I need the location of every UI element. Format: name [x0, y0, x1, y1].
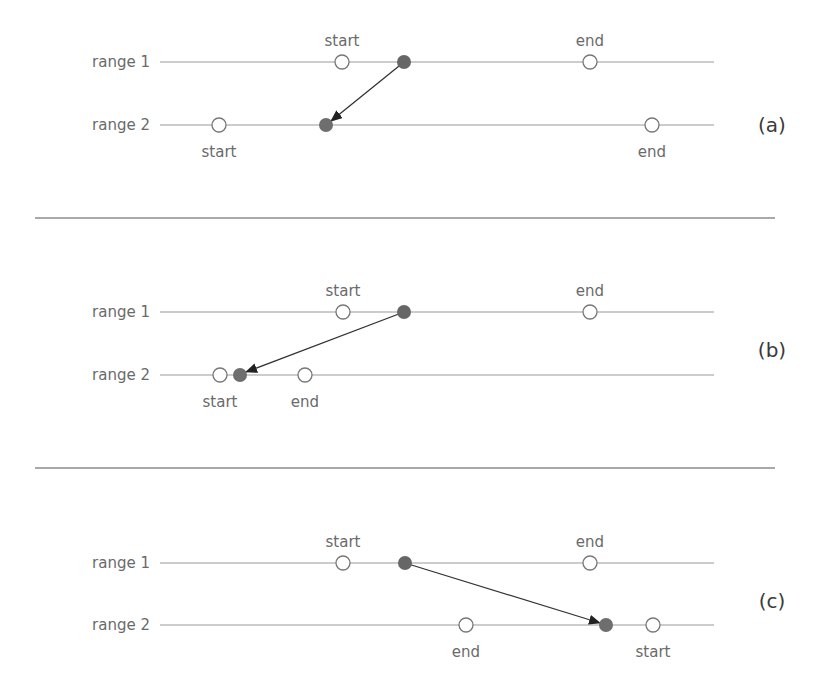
start-label: start	[326, 533, 361, 551]
row-label: range 2	[92, 616, 150, 634]
source-point	[397, 305, 411, 319]
source-point	[398, 556, 412, 570]
mapping-arrow	[246, 312, 404, 372]
start-marker	[336, 305, 350, 319]
panel-c: range 1 start end range 2 end start (c)	[92, 533, 785, 661]
start-label: start	[203, 393, 238, 411]
start-marker	[646, 618, 660, 632]
mapping-arrow	[405, 563, 600, 623]
start-marker	[212, 118, 226, 132]
panel-b: range 1 start end range 2 start end (b)	[92, 282, 786, 411]
end-label: end	[452, 643, 480, 661]
start-marker	[336, 556, 350, 570]
start-marker	[213, 368, 227, 382]
end-marker	[583, 305, 597, 319]
start-label: start	[636, 643, 671, 661]
row-label: range 2	[92, 116, 150, 134]
start-marker	[335, 55, 349, 69]
panel-a: range 1 start end range 2 start end (a)	[92, 32, 786, 161]
mapping-arrow	[331, 62, 404, 121]
row-label: range 1	[92, 53, 150, 71]
row-label: range 1	[92, 554, 150, 572]
end-marker	[583, 55, 597, 69]
target-point	[599, 618, 613, 632]
end-marker	[583, 556, 597, 570]
row-label: range 1	[92, 303, 150, 321]
end-marker	[298, 368, 312, 382]
panel-tag: (c)	[759, 589, 786, 613]
end-marker	[645, 118, 659, 132]
end-marker	[459, 618, 473, 632]
start-label: start	[325, 32, 360, 50]
panel-tag: (b)	[758, 338, 786, 362]
end-label: end	[576, 32, 604, 50]
end-label: end	[291, 393, 319, 411]
end-label: end	[576, 533, 604, 551]
source-point	[397, 55, 411, 69]
start-label: start	[326, 282, 361, 300]
end-label: end	[576, 282, 604, 300]
target-point	[319, 118, 333, 132]
row-label: range 2	[92, 366, 150, 384]
end-label: end	[638, 143, 666, 161]
target-point	[233, 368, 247, 382]
start-label: start	[202, 143, 237, 161]
panel-tag: (a)	[758, 113, 786, 137]
range-mapping-diagram: range 1 start end range 2 start end (a) …	[0, 0, 830, 688]
